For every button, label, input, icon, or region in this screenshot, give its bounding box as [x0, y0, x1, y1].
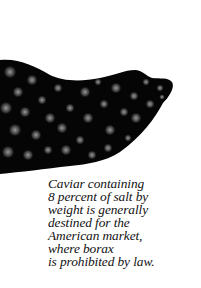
caviar-photo — [0, 0, 201, 200]
caviar-image — [0, 0, 201, 200]
pull-quote-line: is prohibited by law. — [48, 255, 198, 268]
pull-quote: Caviar containing 8 percent of salt by w… — [48, 177, 198, 268]
